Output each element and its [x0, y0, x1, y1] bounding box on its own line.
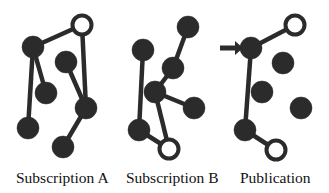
- open-node-p1: [286, 16, 305, 35]
- caption-publication: Publication: [240, 168, 311, 188]
- filled-node-b5: [183, 97, 205, 119]
- arrow-icon: [220, 41, 243, 55]
- filled-node-p6: [234, 119, 256, 141]
- panel-publication: [220, 16, 312, 160]
- filled-node-a7: [52, 136, 74, 158]
- filled-node-b2: [132, 39, 154, 61]
- filled-node-p3: [272, 52, 294, 74]
- filled-node-p4: [251, 81, 273, 103]
- open-node-a1: [73, 16, 92, 35]
- filled-node-p5: [290, 97, 312, 119]
- open-node-p7: [267, 141, 286, 160]
- panel-subscription-b: [128, 16, 205, 159]
- filled-node-b1: [177, 16, 199, 38]
- open-node-b7: [160, 140, 179, 159]
- filled-node-b6: [128, 119, 150, 141]
- filled-node-a3: [55, 51, 77, 73]
- edge-b2-b6: [139, 50, 143, 130]
- filled-node-a2: [22, 36, 44, 58]
- filled-node-a6: [17, 117, 39, 139]
- filled-node-a5: [75, 97, 97, 119]
- caption-subscription-a: Subscription A: [16, 168, 109, 188]
- node-link-diagram: [0, 0, 329, 193]
- caption-subscription-b: Subscription B: [126, 168, 219, 188]
- panel-captions: Subscription A Subscription B Publicatio…: [0, 168, 329, 193]
- filled-node-b3: [162, 57, 184, 79]
- figure-container: Subscription A Subscription B Publicatio…: [0, 0, 329, 193]
- filled-node-b4: [144, 81, 166, 103]
- edge-a2-a6: [28, 47, 33, 128]
- panel-subscription-a: [17, 16, 97, 159]
- filled-node-p2: [240, 37, 262, 59]
- filled-node-a4: [35, 82, 57, 104]
- edge-p2-p6: [245, 48, 251, 130]
